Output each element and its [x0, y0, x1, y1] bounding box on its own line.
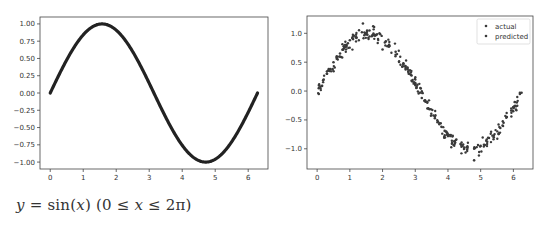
scatter-point	[420, 87, 422, 89]
scatter-point	[466, 150, 468, 152]
x-tick-label: 6	[511, 174, 516, 182]
scatter-point	[344, 41, 346, 43]
predicted-point	[394, 50, 397, 53]
scatter-point	[423, 100, 425, 102]
y-tick-label: 0.25	[19, 72, 35, 80]
y-tick-label: 0.00	[19, 90, 35, 98]
scatter-point	[502, 120, 504, 122]
scatter-point	[421, 92, 423, 94]
scatter-point	[388, 41, 390, 43]
scatter-point	[323, 74, 325, 76]
x-tick-label: 6	[246, 174, 251, 182]
scatter-point	[517, 100, 519, 102]
y-tick-label: 1.0	[291, 30, 302, 38]
y-tick-label: −0.5	[285, 116, 302, 124]
scatter-point	[399, 64, 401, 66]
scatter-point	[402, 62, 404, 64]
scatter-point	[463, 148, 465, 150]
x-tick-label: 4	[446, 174, 451, 182]
scatter-point	[361, 31, 363, 33]
actual-point	[420, 97, 423, 100]
scatter-point	[490, 131, 492, 133]
caption-lhs: y	[16, 196, 25, 214]
x-tick-label: 5	[213, 174, 217, 182]
x-tick-label: 1	[348, 174, 352, 182]
actual-point	[332, 61, 335, 64]
scatter-point	[510, 115, 512, 117]
scatter-point	[408, 73, 410, 75]
scatter-point	[441, 132, 443, 134]
scatter-point	[516, 96, 518, 98]
scatter-point	[355, 33, 357, 35]
y-tick-label: 1.00	[19, 20, 35, 28]
scatter-point	[496, 138, 498, 140]
scatter-point	[490, 141, 492, 143]
sine-line-chart: 01234561.000.750.500.250.00−0.25−0.50−0.…	[0, 0, 273, 185]
scatter-point	[513, 105, 515, 107]
scatter-point	[341, 43, 343, 45]
scatter-point	[351, 48, 353, 50]
scatter-point	[478, 151, 480, 153]
scatter-point	[358, 29, 360, 31]
scatter-point	[460, 152, 462, 154]
scatter-point	[428, 99, 430, 101]
scatter-point	[436, 119, 438, 121]
scatter-point	[449, 135, 451, 137]
scatter-point	[390, 52, 392, 54]
scatter-point	[384, 41, 386, 43]
scatter-point	[444, 134, 446, 136]
actual-point	[368, 29, 371, 32]
scatter-point	[438, 123, 440, 125]
scatter-point	[372, 34, 374, 36]
scatter-point	[335, 56, 337, 58]
scatter-point	[332, 70, 334, 72]
scatter-point	[358, 39, 360, 41]
y-tick-label: 0.75	[19, 38, 35, 46]
y-tick-label: 0.50	[19, 55, 35, 63]
scatter-point	[410, 79, 412, 81]
scatter-point	[405, 59, 407, 61]
scatter-point	[344, 44, 346, 46]
scatter-point	[442, 126, 444, 128]
legend-marker-actual	[485, 25, 488, 28]
scatter-point	[491, 134, 493, 136]
scatter-point	[414, 78, 416, 80]
scatter-point	[486, 143, 488, 145]
caption-domain-var: x	[134, 196, 143, 214]
scatter-point	[345, 48, 347, 50]
scatter-point	[349, 46, 351, 48]
scatter-point	[502, 125, 504, 127]
x-tick-label: 2	[380, 174, 384, 182]
scatter-point	[318, 83, 320, 85]
scatter-point	[461, 145, 463, 147]
scatter-point	[419, 92, 421, 94]
scatter-point	[364, 32, 366, 34]
legend-label-predicted: predicted	[495, 33, 528, 41]
y-tick-label: 0.5	[291, 59, 302, 67]
scatter-point	[430, 113, 432, 115]
scatter-point	[488, 137, 490, 139]
scatter-point	[510, 107, 512, 109]
scatter-point	[394, 55, 396, 57]
scatter-point	[354, 36, 356, 38]
caption-domain-open: (0 ≤	[91, 196, 134, 214]
scatter-point	[406, 68, 408, 70]
scatter-point	[454, 141, 456, 143]
scatter-point	[430, 108, 432, 110]
scatter-point	[404, 65, 406, 67]
scatter-point	[366, 30, 368, 32]
scatter-point	[478, 154, 480, 156]
x-tick-label: 5	[478, 174, 482, 182]
scatter-point	[317, 92, 319, 94]
caption-equals: =	[25, 196, 48, 214]
scatter-point	[498, 126, 500, 128]
x-tick-label: 3	[413, 174, 417, 182]
scatter-point	[451, 140, 453, 142]
scatter-point	[396, 53, 398, 55]
scatter-point	[426, 102, 428, 104]
scatter-point	[326, 70, 328, 72]
scatter-point	[345, 46, 347, 48]
x-tick-label: 2	[114, 174, 118, 182]
scatter-point	[466, 146, 468, 148]
x-tick-label: 3	[147, 174, 151, 182]
